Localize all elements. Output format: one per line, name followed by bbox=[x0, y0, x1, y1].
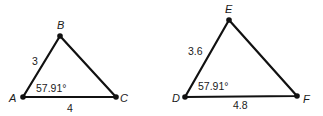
similar-triangles-diagram: A B C 3 4 57.91° D E F 3.6 4.8 57.91° bbox=[0, 0, 323, 116]
side-ac-length: 4 bbox=[67, 102, 73, 114]
vertex-d-label: D bbox=[172, 92, 180, 104]
vertex-f-point bbox=[294, 93, 300, 99]
triangle-def: D E F 3.6 4.8 57.91° bbox=[172, 3, 311, 111]
vertex-f-label: F bbox=[303, 93, 311, 105]
vertex-a-point bbox=[20, 94, 26, 100]
angle-d-measure: 57.91° bbox=[198, 80, 228, 92]
vertex-b-label: B bbox=[57, 19, 64, 31]
triangle-abc: A B C 3 4 57.91° bbox=[8, 19, 128, 114]
vertex-c-label: C bbox=[120, 92, 128, 104]
vertex-a-label: A bbox=[8, 92, 16, 104]
side-ab-length: 3 bbox=[32, 55, 38, 67]
vertex-e-point bbox=[226, 17, 232, 23]
vertex-c-point bbox=[113, 94, 119, 100]
angle-a-measure: 57.91° bbox=[36, 82, 66, 94]
vertex-d-point bbox=[182, 94, 188, 100]
side-de-length: 3.6 bbox=[188, 45, 203, 57]
vertex-e-label: E bbox=[225, 3, 233, 15]
vertex-b-point bbox=[57, 33, 63, 39]
side-df-length: 4.8 bbox=[233, 99, 248, 111]
